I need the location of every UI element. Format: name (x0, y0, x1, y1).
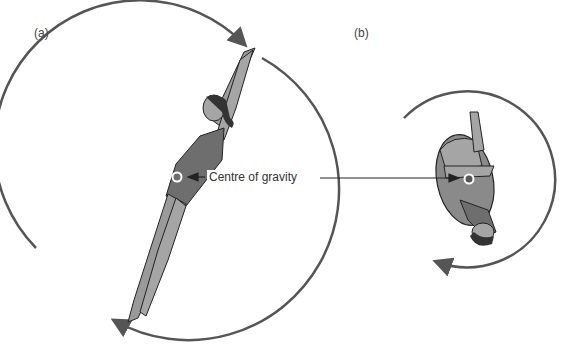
cog-marker-b (465, 175, 474, 184)
diver-extended-figure (128, 48, 255, 322)
panel-label-b: (b) (354, 26, 369, 40)
panel-label-a: (a) (34, 26, 49, 40)
centre-of-gravity-label: Centre of gravity (207, 170, 299, 184)
